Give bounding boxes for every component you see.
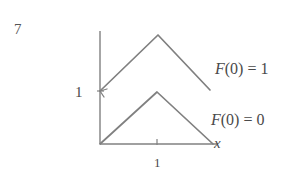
curve-label-upper-value: 1	[260, 60, 268, 77]
curve-label-lower-func: F	[211, 111, 221, 128]
y-axis-tick-label: 1	[75, 85, 83, 100]
figure-number: 7	[14, 22, 22, 37]
curve-label-upper-arg: (0) =	[225, 60, 261, 77]
x-axis-label: x	[214, 136, 221, 151]
x-axis-tick-label: 1	[154, 156, 161, 169]
curve-label-lower-value: 0	[256, 111, 264, 128]
curve-label-lower: F(0) = 0	[211, 112, 264, 128]
curve-label-upper: F(0) = 1	[215, 61, 268, 77]
curve-upper-f0-equals-1	[100, 35, 210, 91]
plot-svg	[0, 0, 288, 170]
figure-container: 7 1 1 x F(0) = 1 F(0) = 0	[0, 0, 288, 170]
curve-lower-f0-equals-0	[100, 92, 213, 144]
curve-label-lower-arg: (0) =	[221, 111, 257, 128]
upper-curve-arrowhead-icon	[100, 89, 107, 97]
curve-label-upper-func: F	[215, 60, 225, 77]
